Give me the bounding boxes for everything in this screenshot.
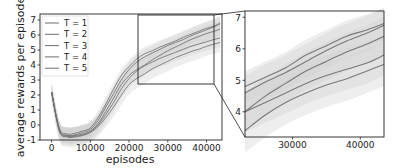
x-tick-label: 30000 xyxy=(278,140,307,150)
inset-plot: 45673000040000 xyxy=(235,8,384,153)
legend-entry: T = 3 xyxy=(63,41,87,51)
y-axis-label: average rewards per episode xyxy=(14,0,27,157)
x-tick-label: 40000 xyxy=(192,143,221,153)
y-tick-label: 4 xyxy=(30,60,36,70)
y-tick-label: 6 xyxy=(30,30,36,40)
y-tick-label: 5 xyxy=(235,76,241,86)
main-plot: -101234567010000200003000040000average r… xyxy=(14,0,222,166)
y-tick-label: 0 xyxy=(30,120,36,130)
y-tick-label: 1 xyxy=(30,105,36,115)
x-axis-label: episodes xyxy=(106,153,155,166)
legend: T = 1T = 2T = 3T = 4T = 5 xyxy=(42,16,88,76)
x-tick-label: 0 xyxy=(49,143,55,153)
y-tick-label: 5 xyxy=(30,45,36,55)
y-tick-label: 2 xyxy=(30,90,36,100)
y-tick-label: 7 xyxy=(30,15,36,25)
x-tick-label: 20000 xyxy=(115,143,144,153)
x-tick-label: 10000 xyxy=(76,143,105,153)
chart-figure: -101234567010000200003000040000average r… xyxy=(0,0,398,168)
y-tick-label: 4 xyxy=(235,107,241,117)
x-tick-label: 30000 xyxy=(153,143,182,153)
x-tick-label: 40000 xyxy=(346,140,375,150)
legend-entry: T = 1 xyxy=(63,18,87,28)
y-tick-label: 6 xyxy=(235,44,241,54)
legend-entry: T = 2 xyxy=(63,29,87,39)
legend-entry: T = 5 xyxy=(63,63,87,73)
legend-entry: T = 4 xyxy=(63,52,87,62)
y-tick-label: 7 xyxy=(235,13,241,23)
y-tick-label: 3 xyxy=(30,75,36,85)
y-tick-label: -1 xyxy=(27,135,36,145)
